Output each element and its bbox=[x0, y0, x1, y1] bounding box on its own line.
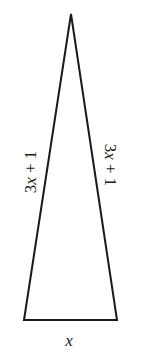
base-label: x bbox=[65, 332, 73, 349]
right-side-coef: 3 bbox=[101, 144, 120, 153]
left-side-var: x bbox=[21, 177, 40, 185]
left-side-label: 3x + 1 bbox=[22, 151, 39, 194]
left-side-rest: + 1 bbox=[21, 151, 40, 178]
right-side-var: x bbox=[101, 152, 120, 160]
right-side-rest: + 1 bbox=[101, 160, 120, 187]
triangle-diagram: 3x + 1 3x + 1 x bbox=[0, 0, 141, 354]
right-side-label: 3x + 1 bbox=[102, 144, 119, 187]
left-side-coef: 3 bbox=[21, 185, 40, 194]
